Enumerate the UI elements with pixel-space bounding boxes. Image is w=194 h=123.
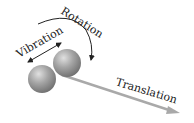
atom-front [28,65,56,93]
atom-back [53,49,81,77]
molecular-motion-diagram: Rotation Vibration Translation [0,0,194,123]
rotation-label: Rotation [58,5,105,41]
